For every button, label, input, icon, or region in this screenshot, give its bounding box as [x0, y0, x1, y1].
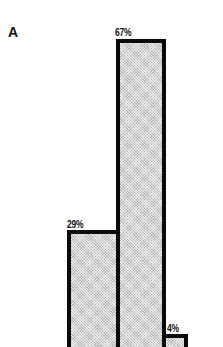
- bar-3: [162, 334, 188, 347]
- bar-value-label: 4%: [167, 323, 179, 334]
- bar-2: [116, 39, 166, 347]
- bar-1: [67, 230, 120, 347]
- panel-label: A: [8, 24, 18, 40]
- bar-value-label: 29%: [67, 219, 83, 230]
- bar-value-label: 67%: [115, 27, 131, 38]
